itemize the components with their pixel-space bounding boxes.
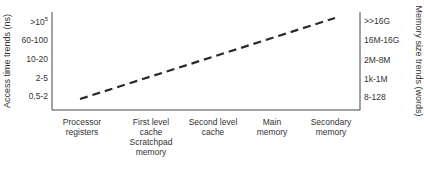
category-line: Processor (47, 117, 117, 127)
left-tick-1: 60-100 (10, 35, 48, 45)
left-tick-3: 2-5 (10, 73, 48, 83)
category-line: cache (116, 127, 186, 137)
category-line: First level (116, 117, 186, 127)
trend-line (80, 18, 335, 99)
category-secondary-memory: Secondary memory (296, 117, 366, 137)
category-first-level-cache: First level cache Scratchpad memory (116, 117, 186, 157)
left-tick-0: >105 (10, 14, 48, 27)
category-line: memory (116, 147, 186, 157)
category-line: memory (296, 127, 366, 137)
right-tick-3: 1k-1M (364, 74, 388, 84)
left-tick-4: 0,5-2 (10, 91, 48, 101)
left-tick-2: 10-20 (10, 54, 48, 64)
category-line: registers (47, 127, 117, 137)
category-processor-registers: Processor registers (47, 117, 117, 137)
right-tick-0: >>16G (364, 16, 390, 26)
category-line: Scratchpad (116, 137, 186, 147)
right-tick-4: 8-128 (364, 92, 386, 102)
right-tick-2: 2M-8M (364, 55, 390, 65)
right-tick-1: 16M-16G (364, 35, 399, 45)
category-line: Secondary (296, 117, 366, 127)
right-axis-label: Memory size trends (words) (414, 0, 424, 126)
